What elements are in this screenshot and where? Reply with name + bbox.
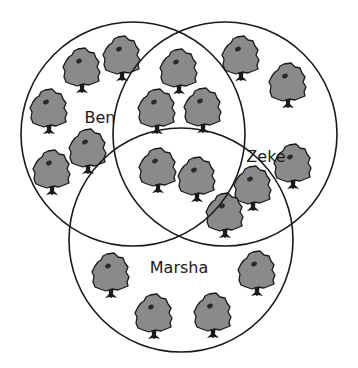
trees-layer — [30, 36, 311, 339]
tree-icon — [69, 129, 106, 174]
tree-icon — [178, 157, 215, 202]
tree-icon — [139, 148, 176, 193]
tree-icon — [184, 88, 221, 133]
tree-icon — [30, 89, 67, 134]
tree-icon — [238, 251, 275, 296]
label-zeke: Zeke — [246, 149, 285, 165]
tree-icon — [135, 294, 172, 339]
tree-icon — [92, 253, 129, 298]
tree-icon — [194, 293, 231, 338]
tree-icon — [160, 49, 197, 94]
tree-icon — [63, 48, 100, 93]
tree-icon — [138, 89, 175, 134]
tree-icon — [33, 150, 70, 195]
venn-diagram — [0, 0, 358, 368]
label-ben: Ben — [85, 110, 116, 126]
label-marsha: Marsha — [150, 260, 208, 276]
tree-icon — [103, 36, 140, 81]
tree-icon — [269, 63, 306, 108]
